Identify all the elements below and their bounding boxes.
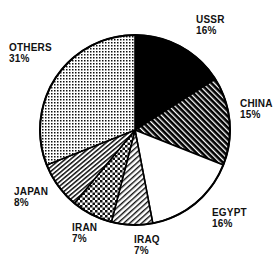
slice-label-ussr: USSR 16%: [196, 14, 225, 36]
slice-label-china-value: 15%: [240, 109, 273, 120]
slice-label-others-value: 31%: [9, 53, 52, 64]
slice-label-china: CHINA 15%: [240, 98, 273, 120]
slice-label-japan: JAPAN 8%: [14, 186, 48, 208]
slice-label-others: OTHERS 31%: [9, 42, 52, 64]
slice-label-iran-value: 7%: [72, 233, 97, 244]
slice-label-others-name: OTHERS: [9, 42, 52, 53]
slice-label-egypt: EGYPT 16%: [212, 207, 247, 229]
slice-label-ussr-name: USSR: [196, 14, 225, 25]
slice-label-iraq-name: IRAQ: [134, 234, 160, 245]
slice-label-china-name: CHINA: [240, 98, 273, 109]
slice-label-iraq-value: 7%: [134, 245, 160, 256]
slice-label-japan-value: 8%: [14, 197, 48, 208]
slice-label-japan-name: JAPAN: [14, 186, 48, 197]
slice-label-iran: IRAN 7%: [72, 222, 97, 244]
slice-label-egypt-name: EGYPT: [212, 207, 247, 218]
slice-label-iran-name: IRAN: [72, 222, 97, 233]
slice-label-egypt-value: 16%: [212, 218, 247, 229]
slice-label-iraq: IRAQ 7%: [134, 234, 160, 256]
slice-label-ussr-value: 16%: [196, 25, 225, 36]
pie-chart: USSR 16% CHINA 15% EGYPT 16% IRAQ 7% IRA…: [0, 0, 280, 266]
